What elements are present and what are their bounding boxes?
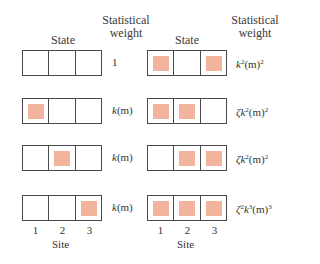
site-cell-1 xyxy=(23,196,49,220)
right-weight-header: Statistical weight xyxy=(224,14,286,40)
occupied-marker xyxy=(54,151,70,166)
site-cell-3 xyxy=(76,146,101,170)
occupied-marker xyxy=(81,201,97,216)
site-cell-2 xyxy=(174,51,200,75)
right-state-row xyxy=(147,50,227,76)
statistical-weight: ζk2(m)2 xyxy=(236,103,268,119)
statistical-weight: k(m) xyxy=(112,103,133,117)
statistical-weight: 1 xyxy=(112,55,118,69)
left-state-row xyxy=(22,98,102,124)
occupied-marker xyxy=(153,201,169,216)
right-state-row xyxy=(147,195,227,221)
site-cell-2 xyxy=(49,99,75,123)
site-cell-2 xyxy=(174,146,200,170)
site-cell-1 xyxy=(148,51,174,75)
site-tick-2: 2 xyxy=(49,224,76,236)
occupied-marker xyxy=(179,151,195,166)
site-cell-3 xyxy=(201,146,226,170)
site-cell-3 xyxy=(76,51,101,75)
site-cell-2 xyxy=(174,196,200,220)
occupied-marker xyxy=(206,201,222,216)
statistical-weight: k(m) xyxy=(112,150,133,164)
site-axis-label: Site xyxy=(52,238,69,250)
occupied-marker xyxy=(179,104,195,119)
site-cell-2 xyxy=(174,99,200,123)
right-state-row xyxy=(147,98,227,124)
occupied-marker xyxy=(153,56,169,71)
left-state-row xyxy=(22,50,102,76)
site-cell-1 xyxy=(148,99,174,123)
occupied-marker xyxy=(206,56,222,71)
right-state-header: State xyxy=(162,34,212,47)
site-tick-2: 2 xyxy=(174,224,201,236)
site-cell-1 xyxy=(148,146,174,170)
site-cell-2 xyxy=(49,51,75,75)
site-cell-2 xyxy=(49,196,75,220)
statistical-weight: k(m) xyxy=(112,200,133,214)
site-cell-2 xyxy=(49,146,75,170)
site-cell-3 xyxy=(76,196,101,220)
site-cell-1 xyxy=(23,146,49,170)
site-cell-1 xyxy=(23,99,49,123)
right-weight-header-line2: weight xyxy=(224,27,286,40)
site-cell-3 xyxy=(201,99,226,123)
statistical-weight: ζk2(m)2 xyxy=(236,150,268,166)
site-tick-1: 1 xyxy=(22,224,49,236)
left-weight-header-line2: weight xyxy=(100,27,152,40)
site-tick-1: 1 xyxy=(147,224,174,236)
statistical-weight: ζ2k3(m)3 xyxy=(236,200,272,216)
site-tick-3: 3 xyxy=(201,224,228,236)
left-state-row xyxy=(22,145,102,171)
right-state-row xyxy=(147,145,227,171)
occupied-marker xyxy=(206,151,222,166)
occupied-marker xyxy=(153,104,169,119)
site-cell-1 xyxy=(23,51,49,75)
left-state-header: State xyxy=(38,34,88,47)
site-cell-3 xyxy=(201,51,226,75)
site-cell-3 xyxy=(76,99,101,123)
site-cell-1 xyxy=(148,196,174,220)
occupied-marker xyxy=(179,201,195,216)
left-weight-header: Statistical weight xyxy=(100,14,152,40)
left-state-row xyxy=(22,195,102,221)
site-cell-3 xyxy=(201,196,226,220)
site-axis-label: Site xyxy=(177,238,194,250)
statistical-weight: k2(m)2 xyxy=(236,55,264,71)
site-tick-3: 3 xyxy=(76,224,103,236)
occupied-marker xyxy=(28,104,44,119)
